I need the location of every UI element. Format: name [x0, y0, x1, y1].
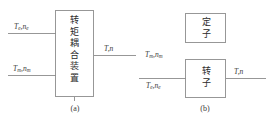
panel-b-output-label: T,n — [234, 68, 243, 76]
panel-a-char-6: 置 — [66, 73, 82, 85]
panel-a-char-1: 转 — [66, 15, 82, 27]
panel-b-input-lower-subscript: e — [150, 84, 152, 90]
panel-a-char-5: 装 — [66, 61, 82, 73]
panel-b-stator-label: 定 子 — [197, 17, 215, 40]
panel-b-output-symbol2: n — [240, 67, 244, 76]
panel-b-caption: (b) — [190, 104, 220, 113]
panel-b-input-lower-label: Te,ne — [146, 82, 161, 90]
panel-b-rotor-char-2: 子 — [197, 78, 215, 90]
panel-a-char-3: 耦 — [66, 38, 82, 50]
panel-b-stator-char-1: 定 — [197, 17, 215, 29]
panel-a-caption: (a) — [60, 104, 90, 113]
panel-a-char-4: 合 — [66, 50, 82, 62]
panel-b-input-upper-label: Tm,nm — [145, 51, 162, 59]
panel-a-box-label: 转 矩 耦 合 装 置 — [66, 15, 82, 85]
diagram-lines — [0, 0, 273, 124]
panel-a-input-upper-subscript: e — [18, 25, 20, 31]
panel-a-input-upper-subscript2: e — [26, 25, 28, 31]
panel-b-input-upper-subscript2: m — [159, 53, 163, 59]
panel-b-stator-char-2: 子 — [197, 29, 215, 41]
panel-a-input-upper-label: Te,ne — [14, 23, 29, 31]
panel-a-input-lower-label: Tm,nm — [13, 65, 30, 73]
panel-a-char-2: 矩 — [66, 27, 82, 39]
panel-b-rotor-label: 转 子 — [197, 66, 215, 89]
figure-canvas: 转 矩 耦 合 装 置 Te,ne Tm,nm T,n (a) 定 子 转 子 … — [0, 0, 273, 124]
panel-b-input-lower-subscript2: e — [158, 84, 160, 90]
panel-a-input-lower-subscript2: m — [27, 67, 31, 73]
panel-a-input-lower-subscript: m — [17, 67, 21, 73]
panel-a-output-label: T,n — [104, 45, 113, 53]
panel-a-output-symbol2: n — [110, 44, 114, 53]
panel-b-input-upper-subscript: m — [149, 53, 153, 59]
panel-b-rotor-char-1: 转 — [197, 66, 215, 78]
